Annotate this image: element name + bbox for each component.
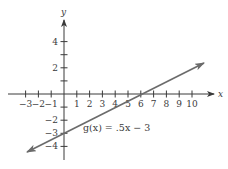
x-tick-label: 8	[164, 99, 170, 109]
x-axis-label: x	[218, 89, 223, 99]
y-tick-label: 2	[52, 63, 58, 73]
x-tick-label: 2	[87, 99, 93, 109]
y-axis-label: y	[60, 7, 67, 17]
function-label: g(x) = .5x − 3	[83, 122, 150, 133]
y-tick-label: −2	[45, 115, 58, 125]
x-tick-label: −2	[32, 99, 45, 109]
x-tick-label: 3	[100, 99, 106, 109]
x-tick-label: 10	[186, 99, 198, 109]
x-tick-label: 7	[151, 99, 157, 109]
x-axis-ticks: −3−2−112345678910	[19, 91, 198, 110]
y-tick-label: 4	[52, 37, 58, 47]
graph-canvas: −3−2−112345678910 −4−3−224 x y g(x) = .5…	[0, 0, 228, 169]
x-tick-label: −1	[45, 99, 58, 109]
x-tick-label: 6	[138, 99, 144, 109]
x-tick-label: 9	[176, 99, 182, 109]
x-tick-label: −3	[19, 99, 33, 109]
x-tick-label: 1	[74, 99, 80, 109]
function-graph: −3−2−112345678910 −4−3−224 x y g(x) = .5…	[0, 0, 228, 169]
